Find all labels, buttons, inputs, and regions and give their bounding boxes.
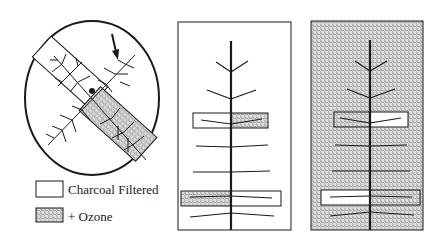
- legend-swatch-charcoal-filtered: [36, 181, 63, 197]
- top-view-circle-panel: [25, 21, 159, 175]
- legend-swatch-ozone: [36, 208, 63, 222]
- experiment-diagram: Charcoal Filtered + Ozone: [0, 0, 444, 237]
- side-view-panel-ozone: [311, 21, 423, 230]
- stem-center-dot: [89, 88, 95, 94]
- lower-box-left-stippled: [181, 191, 231, 206]
- side-view-panel-charcoal: [178, 22, 291, 230]
- arrow-icon: [112, 34, 119, 60]
- legend-label-ozone: + Ozone: [68, 209, 113, 224]
- legend-label-charcoal-filtered: Charcoal Filtered: [68, 182, 159, 197]
- lower-box-left-white: [321, 190, 370, 205]
- legend: Charcoal Filtered + Ozone: [36, 181, 159, 224]
